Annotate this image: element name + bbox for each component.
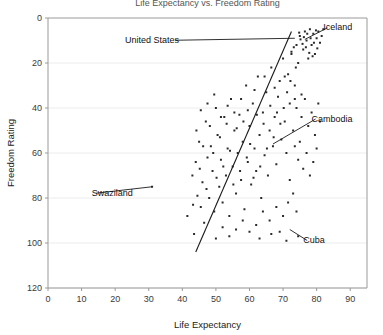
data-point [223,116,225,118]
data-point [290,51,292,53]
data-point [249,143,251,145]
data-point [304,31,306,33]
data-point [255,170,257,172]
data-point [287,202,289,204]
data-point [289,103,291,105]
data-point [292,130,294,132]
data-point [213,94,215,96]
data-point [282,58,284,60]
data-point [297,62,299,64]
data-point [279,80,281,82]
data-point [306,152,308,154]
x-tick-label: 30 [144,294,154,304]
data-point [311,44,313,46]
data-point [235,229,237,231]
x-tick-label: 80 [312,294,322,304]
data-point [254,148,256,150]
data-point [218,186,220,188]
data-point [264,76,266,78]
data-point [309,28,311,30]
x-tick-label: 60 [244,294,254,304]
data-point [321,35,323,37]
data-point [317,103,319,105]
data-point [289,179,291,181]
scatter-chart: Life Expectancy vs. Freedom Rating020406… [0,0,383,335]
data-point [319,42,321,44]
x-tick-label: 0 [45,294,50,304]
data-point [272,145,274,147]
data-point [227,105,229,107]
data-point [310,37,312,39]
data-point [302,43,304,45]
data-point [242,220,244,222]
data-point [201,181,203,183]
annotation-label-cambodia: Cambodia [312,114,353,124]
data-point [284,121,286,123]
data-point [316,37,318,39]
data-point [290,53,292,55]
data-point [301,94,303,96]
data-point [276,112,278,114]
data-point [282,215,284,217]
data-point [314,53,316,55]
data-point [308,52,310,54]
data-point [222,226,224,228]
data-point [274,87,276,89]
data-point [186,215,188,217]
data-point [203,222,205,224]
y-tick-label: 120 [27,283,42,293]
data-point [215,107,217,109]
data-point [266,148,268,150]
data-point [205,121,207,123]
data-point [279,123,281,125]
data-point [279,231,281,233]
data-point [314,134,316,136]
data-point [262,112,264,114]
data-point [309,175,311,177]
data-point [209,125,211,127]
data-point [210,145,212,147]
data-point [217,134,219,136]
x-tick-label: 50 [211,294,221,304]
data-point [202,145,204,147]
data-point [228,215,230,217]
data-point [196,195,198,197]
data-point [284,76,286,78]
data-point [250,184,252,186]
data-point [313,42,315,44]
data-point [262,211,264,213]
data-point [312,55,314,57]
x-tick-label: 20 [110,294,120,304]
data-point [193,233,195,235]
data-point [285,240,287,242]
data-point [229,150,231,152]
annotation-label-swaziland: Swaziland [92,188,133,198]
data-point [275,206,277,208]
data-point [248,231,250,233]
data-point [307,58,309,60]
data-point [219,136,221,138]
annotation-leader-united-states [175,38,295,40]
data-point [233,130,235,132]
data-point [207,157,209,159]
data-point [233,112,235,114]
data-point [238,114,240,116]
data-point [191,175,193,177]
data-point [255,224,257,226]
data-point [235,193,237,195]
y-tick-label: 20 [32,58,42,68]
data-point [212,152,214,154]
x-axis-title: Life Expectancy [174,319,241,330]
data-point [228,235,230,237]
data-point [269,130,271,132]
data-point [295,211,297,213]
data-point [259,238,261,240]
data-point [294,98,296,100]
data-point [215,238,217,240]
data-point [198,141,200,143]
data-point [253,177,255,179]
data-point [212,170,214,172]
data-point [246,157,248,159]
data-point [295,107,297,109]
data-point [264,154,266,156]
